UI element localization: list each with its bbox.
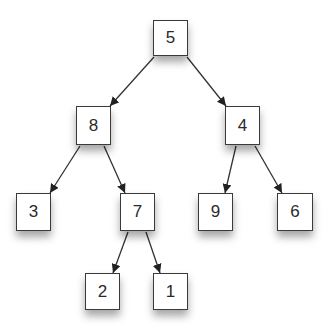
tree-diagram: 5 8 4 3 7 9 6 2 1 — [0, 0, 332, 330]
tree-node-root-5: 5 — [153, 20, 188, 56]
edge-arrow-8-to-3 — [50, 146, 80, 193]
node-label: 9 — [211, 202, 220, 222]
tree-node-7: 7 — [120, 193, 155, 231]
tree-node-3: 3 — [16, 193, 51, 231]
edge-arrow-4-to-9 — [225, 146, 236, 193]
tree-node-1: 1 — [153, 273, 188, 310]
edge-arrow-5-to-4 — [187, 57, 226, 106]
tree-node-6: 6 — [277, 193, 313, 231]
node-label: 5 — [166, 28, 175, 48]
node-label: 6 — [290, 202, 299, 222]
node-label: 1 — [166, 282, 175, 302]
tree-node-8: 8 — [76, 106, 111, 145]
edge-arrow-4-to-6 — [255, 146, 282, 193]
edge-arrow-7-to-1 — [146, 232, 160, 273]
node-label: 8 — [89, 116, 98, 136]
node-label: 7 — [133, 202, 142, 222]
tree-node-4: 4 — [225, 106, 260, 145]
node-label: 4 — [238, 116, 247, 136]
edge-arrow-8-to-7 — [104, 146, 125, 193]
node-label: 2 — [98, 282, 107, 302]
node-label: 3 — [29, 202, 38, 222]
edge-arrow-5-to-8 — [110, 57, 154, 106]
tree-node-2: 2 — [85, 273, 120, 310]
tree-node-9: 9 — [198, 193, 233, 231]
edge-arrow-7-to-2 — [113, 232, 128, 273]
